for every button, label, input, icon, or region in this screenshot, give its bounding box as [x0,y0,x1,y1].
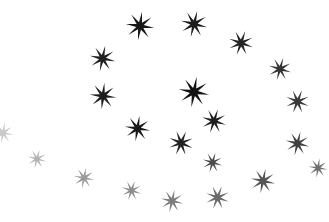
star-right-upper-icon [268,57,292,81]
star-center-bottom-icon [168,130,194,156]
star-bottom-pale-c-icon [205,185,230,210]
star-polygon [201,181,232,212]
star-polygon [198,105,229,136]
star-polygon [118,177,144,203]
star-polygon [25,147,49,171]
star-bottom-pale-b-icon [160,189,184,213]
star-polygon [88,81,118,111]
star-polygon [165,127,198,160]
star-polygon [124,10,157,43]
star-top-right-icon [228,30,254,56]
star-polygon [178,8,211,41]
star-bottom-right-icon [250,168,276,194]
star-top-mid-icon [180,10,208,38]
star-center-bright-icon [178,76,210,108]
star-polygon [72,166,97,191]
star-mid-left-icon [89,82,117,110]
star-center-right-icon [201,108,227,134]
star-polygon [281,85,312,116]
star-top-left-upper-icon [125,11,155,41]
star-polygon [225,27,257,59]
star-field-canvas [0,0,329,222]
star-polygon [282,128,311,157]
star-bottom-pale-a-icon [121,180,142,201]
star-polygon [266,55,294,83]
star-right-lower-icon [285,131,310,156]
star-bottom-right-top-icon [202,152,223,173]
star-polygon [307,157,329,179]
star-right-edge-low-icon [308,158,328,178]
star-polygon [122,113,152,143]
star-polygon [176,74,212,110]
star-polygon [158,187,186,215]
star-polygon [87,43,118,74]
star-polygon [199,149,224,174]
star-polygon [0,121,15,145]
star-center-lower-icon [124,115,151,142]
star-edge-left-clipped-icon [0,122,14,144]
star-upper-left-icon [89,45,116,72]
star-right-mid-icon [285,89,310,114]
star-bottom-left-mid-icon [73,167,95,189]
star-bottom-left-pale-icon [27,149,47,169]
star-polygon [248,166,278,196]
